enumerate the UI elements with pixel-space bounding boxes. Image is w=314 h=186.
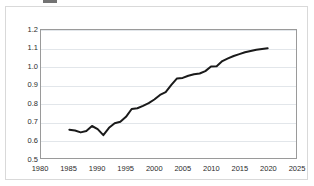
x-axis-tick-labels: 1980198519901995200020052010201520202025 <box>40 163 297 177</box>
x-axis-tick-label: 1980 <box>32 163 49 174</box>
x-axis-tick-label: 1995 <box>117 163 134 174</box>
y-axis-tick-label: 0.8 <box>28 98 38 109</box>
x-axis-tick-label: 1985 <box>60 163 77 174</box>
x-axis-tick-label: 2010 <box>203 163 220 174</box>
y-axis-tick-label: 0.9 <box>28 79 38 90</box>
y-axis-tick-label: 1.0 <box>28 61 38 72</box>
x-axis-tick-label: 2000 <box>146 163 163 174</box>
cropped-title-sliver <box>43 0 57 3</box>
x-axis-tick-label: 2020 <box>260 163 277 174</box>
x-axis-tick-label: 2025 <box>289 163 306 174</box>
y-axis-tick-label: 0.6 <box>28 135 38 146</box>
x-axis-tick-label: 2015 <box>232 163 249 174</box>
series-line-series-1 <box>41 30 296 158</box>
y-axis-tick-label: 0.7 <box>28 116 38 127</box>
y-axis-tick-label: 1.1 <box>28 42 38 53</box>
plot-area <box>40 29 297 159</box>
x-axis-tick-label: 2005 <box>174 163 191 174</box>
x-axis-tick-label: 1990 <box>89 163 106 174</box>
y-axis-tick-labels: 0.50.60.70.80.91.01.11.2 <box>12 23 40 165</box>
line-chart-figure: 0.50.60.70.80.91.01.11.2 198019851990199… <box>0 0 314 186</box>
series-1-polyline <box>69 48 267 135</box>
y-axis-tick-label: 1.2 <box>28 24 38 35</box>
chart-frame: 0.50.60.70.80.91.01.11.2 198019851990199… <box>5 6 308 180</box>
